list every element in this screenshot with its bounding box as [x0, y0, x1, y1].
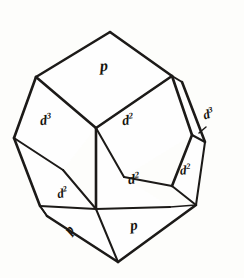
label-lower-center-face-superscript: 2 — [134, 169, 139, 179]
label-lower-left-face: d2 — [56, 185, 69, 200]
label-upper-left-face: d3 — [39, 111, 52, 128]
label-bottom-right-face: p — [129, 218, 139, 234]
label-lower-left-face-superscript: 2 — [62, 184, 68, 194]
label-right-lower-face: d2 — [180, 163, 191, 177]
label-top-face-symbol: p — [99, 57, 108, 75]
crystal-figure: p d3 d2 d3 d2 d2 d2 p p — [0, 0, 244, 278]
label-upper-left-face-superscript: 3 — [46, 110, 51, 120]
label-bottom-right-face-symbol: p — [129, 217, 139, 234]
face-fills — [14, 32, 205, 262]
label-lower-center-face: d2 — [127, 170, 140, 187]
label-upper-right-face: d2 — [121, 111, 134, 128]
label-right-lower-face-superscript: 2 — [186, 162, 191, 171]
label-top-face: p — [99, 58, 108, 75]
crystal-drawing — [0, 0, 244, 278]
